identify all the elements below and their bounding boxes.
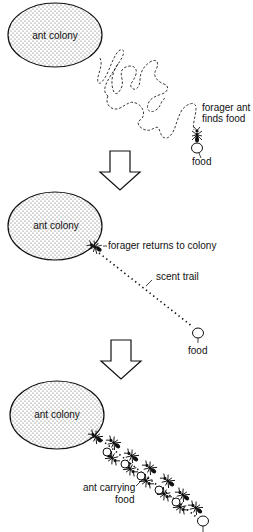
scent-trail-label: scent trail: [156, 271, 199, 282]
ant-carrying-food-label-line1: ant carrying: [83, 482, 135, 493]
ant-carrying-food-label-line2: food: [115, 494, 134, 505]
food-icon: [198, 516, 209, 526]
ant-column: [87, 428, 205, 517]
food-label-2: food: [188, 345, 207, 356]
panel-3: [10, 381, 209, 532]
panel-2: [8, 192, 204, 343]
colony-label-1: ant colony: [25, 30, 85, 41]
down-arrow-icon: [100, 151, 140, 190]
search-path: [98, 50, 196, 138]
forager-finds-food-label-line1: forager ant: [202, 102, 250, 113]
down-arrow-icon: [101, 340, 141, 379]
colony-label-3: ant colony: [27, 409, 87, 420]
food-icon: [193, 328, 204, 338]
food-label-1: food: [192, 156, 211, 167]
colony-label-2: ant colony: [26, 220, 86, 231]
diagram-canvas: [0, 0, 253, 532]
forager-returns-label: forager returns to colony: [108, 240, 216, 251]
panel-1: [8, 3, 203, 158]
forager-finds-food-label-line2: finds food: [202, 113, 245, 124]
food-icon: [192, 143, 203, 153]
scent-trail: [99, 253, 193, 327]
forager-ant-icon: [192, 127, 202, 143]
